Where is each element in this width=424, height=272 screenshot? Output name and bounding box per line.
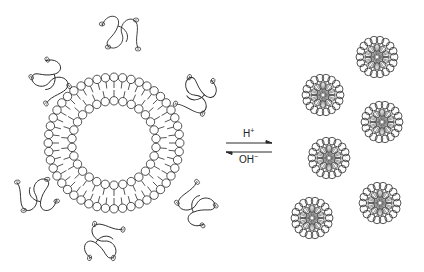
negative-charge-icon	[199, 222, 206, 229]
micelle	[356, 36, 398, 77]
micelle	[291, 197, 333, 238]
polymer-chain	[14, 174, 61, 215]
polymer-chain	[99, 16, 141, 51]
negative-charge-icon	[44, 56, 50, 63]
micelle-group	[291, 36, 403, 238]
negative-charge-icon	[111, 255, 116, 261]
negative-charge-icon	[200, 110, 206, 117]
plus-sup: +	[250, 127, 254, 134]
reverse-arrowhead-icon	[226, 152, 232, 155]
polymer-chain	[171, 178, 225, 232]
forward-arrowhead-icon	[266, 141, 272, 144]
minus-sup: −	[254, 153, 258, 160]
negative-charge-icon	[120, 226, 125, 232]
polymer-chain	[23, 53, 75, 107]
micelle	[359, 182, 401, 223]
vesicle-bilayer	[44, 73, 184, 213]
micelle	[308, 137, 350, 178]
negative-charge-icon	[92, 221, 97, 227]
negative-charge-icon	[194, 178, 201, 185]
diagram-canvas	[0, 0, 424, 272]
micelle	[302, 74, 344, 115]
negative-charge-icon	[14, 180, 20, 185]
oh-ion-text: OH	[239, 154, 254, 165]
polymer-chains	[14, 16, 224, 267]
reverse-condition-label: OH−	[239, 153, 258, 165]
negative-charge-icon	[210, 78, 216, 85]
polymer-chain	[81, 218, 125, 267]
polymer-chain	[172, 67, 221, 119]
negative-charge-icon	[172, 100, 178, 107]
forward-condition-label: H+	[243, 127, 254, 139]
negative-charge-icon	[212, 202, 219, 209]
micelle	[361, 101, 403, 142]
negative-charge-icon	[54, 199, 60, 204]
